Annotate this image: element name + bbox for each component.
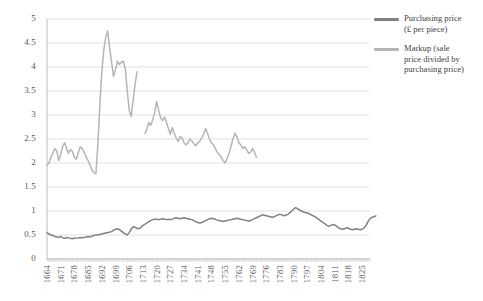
y-axis-tick-label: 3.5	[2, 85, 36, 95]
x-axis-tick-label: 1741	[193, 265, 203, 283]
legend-swatch-markup	[374, 48, 399, 51]
x-axis-tick-label: 1734	[179, 265, 189, 283]
y-axis-tick-label: 1	[2, 205, 36, 215]
x-axis-tick-label: 1776	[261, 265, 271, 283]
legend-item-markup[interactable]: Markup (saleprice divided bypurchasing p…	[374, 43, 483, 75]
y-axis-tick-label: 3	[2, 109, 36, 119]
chart-container: £ per piece Purchasing price(£ per piece…	[0, 0, 483, 301]
x-axis-tick-label: 1671	[56, 265, 66, 283]
x-axis-tick-label: 1804	[316, 265, 326, 283]
x-axis-tick-label: 1664	[42, 265, 52, 283]
x-axis-tick-label: 1818	[343, 265, 353, 283]
x-axis-tick-label: 1713	[138, 265, 148, 283]
series-line-markup	[47, 31, 256, 174]
y-axis-tick-label: 5	[2, 13, 36, 23]
x-axis-tick-label: 1783	[275, 265, 285, 283]
x-axis-tick-label: 1811	[330, 265, 340, 283]
x-axis-tick-label: 1685	[83, 265, 93, 283]
y-axis-tick-label: 0	[2, 253, 36, 263]
x-axis-tick-label: 1699	[111, 265, 121, 283]
x-axis-tick-label: 1825	[357, 265, 367, 283]
x-axis-tick-label: 1790	[289, 265, 299, 283]
y-axis-tick-label: 4	[2, 61, 36, 71]
x-axis-tick-label: 1692	[97, 265, 107, 283]
x-axis-tick-label: 1769	[248, 265, 258, 283]
x-axis-tick-label: 1762	[234, 265, 244, 283]
x-axis-tick-label: 1755	[220, 265, 230, 283]
legend-item-purchasing-price[interactable]: Purchasing price(£ per piece)	[374, 13, 483, 34]
y-axis-tick-label: 0.5	[2, 229, 36, 239]
legend-label-purchasing-price: Purchasing price(£ per piece)	[404, 13, 462, 34]
x-axis-tick-label: 1678	[69, 265, 79, 283]
x-axis-tick-label: 1706	[124, 265, 134, 283]
series-line-purchasing-price	[47, 208, 376, 239]
legend-label-markup: Markup (saleprice divided bypurchasing p…	[404, 43, 464, 75]
y-axis-tick-label: 1.5	[2, 181, 36, 191]
y-axis-tick-label: 4.5	[2, 37, 36, 47]
chart-legend: Purchasing price(£ per piece) Markup (sa…	[374, 13, 483, 84]
x-axis-tick-label: 1748	[206, 265, 216, 283]
x-axis-tick-label: 1797	[302, 265, 312, 283]
y-axis-tick-label: 2	[2, 157, 36, 167]
y-axis-tick-label: 2.5	[2, 133, 36, 143]
x-axis-tick-label: 1727	[165, 265, 175, 283]
legend-swatch-purchasing-price	[374, 18, 399, 21]
x-axis-tick-label: 1720	[152, 265, 162, 283]
